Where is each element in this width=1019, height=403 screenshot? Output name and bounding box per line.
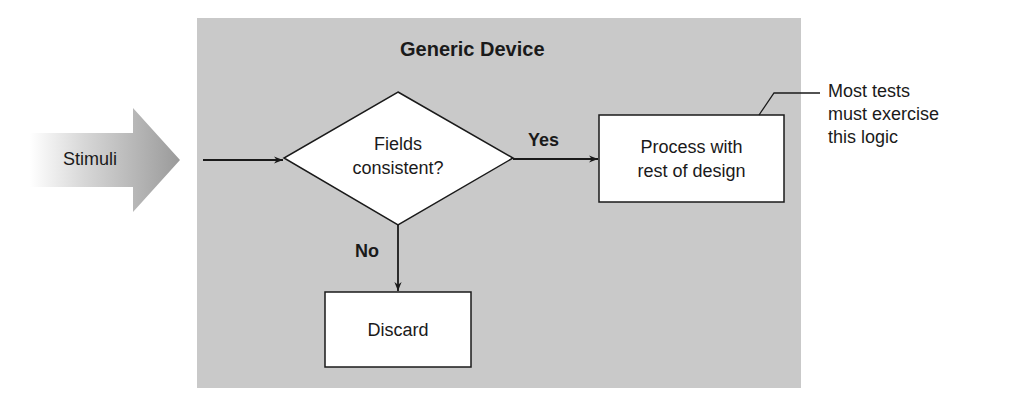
- decision-line-2: consistent?: [308, 156, 488, 180]
- process-line-1: Process with: [599, 135, 784, 159]
- device-title: Generic Device: [400, 38, 545, 61]
- decision-label: Fields consistent?: [308, 132, 488, 180]
- process-line-2: rest of design: [599, 159, 784, 183]
- stimuli-label: Stimuli: [63, 149, 117, 170]
- device-container: [197, 18, 801, 388]
- annotation-line-1: Most tests: [828, 80, 939, 103]
- annotation-line-2: must exercise: [828, 103, 939, 126]
- annotation-line-3: this logic: [828, 126, 939, 149]
- annotation-text: Most tests must exercise this logic: [828, 80, 939, 149]
- process-label: Process with rest of design: [599, 135, 784, 183]
- no-label: No: [355, 241, 379, 262]
- yes-label: Yes: [528, 130, 559, 151]
- discard-label: Discard: [325, 318, 471, 342]
- decision-line-1: Fields: [308, 132, 488, 156]
